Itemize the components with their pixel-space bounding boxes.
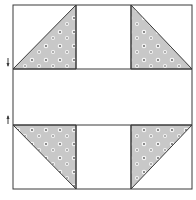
triangles bbox=[13, 5, 192, 189]
triangle-bottom-left bbox=[13, 125, 76, 189]
up-arrow-icon bbox=[7, 115, 10, 124]
triangle-bottom-right bbox=[131, 125, 192, 189]
triangle-top-left bbox=[13, 5, 76, 69]
arrows bbox=[7, 58, 10, 124]
outline bbox=[13, 5, 192, 189]
block-border bbox=[13, 5, 192, 189]
down-arrow-icon bbox=[7, 58, 10, 67]
triangle-top-right bbox=[131, 5, 192, 69]
quilt-block-diagram bbox=[0, 0, 196, 200]
